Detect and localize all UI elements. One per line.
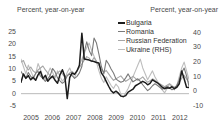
ytick-right-20: 20 xyxy=(193,58,211,65)
ytick-left-5: 5 xyxy=(1,77,16,84)
legend-swatch-icon xyxy=(118,31,125,32)
ytick-right-0: 0 xyxy=(193,87,211,94)
ytick-left-20: 20 xyxy=(1,40,16,47)
ytick-left-neg5: -5 xyxy=(1,102,16,109)
legend: BulgariaRomaniaRussian FederationUkraine… xyxy=(118,18,210,54)
legend-item-bulgaria[interactable]: Bulgaria xyxy=(118,18,210,27)
legend-item-romania[interactable]: Romania xyxy=(118,27,210,36)
legend-label: Bulgaria xyxy=(126,18,152,27)
legend-label: Romania xyxy=(126,27,154,36)
right-axis-title: Percent, year-on-year xyxy=(150,6,218,13)
left-axis-title: Percent, year-on-year xyxy=(17,6,85,13)
ytick-left-25: 25 xyxy=(1,28,16,35)
legend-item-ukraine-rhs[interactable]: Ukraine (RHS) xyxy=(118,45,210,54)
legend-swatch-icon xyxy=(118,49,125,50)
legend-swatch-icon xyxy=(118,22,125,24)
ytick-right-10: 10 xyxy=(193,73,211,80)
legend-label: Russian Federation xyxy=(126,36,187,45)
ytick-right-neg10: -10 xyxy=(193,102,211,109)
series-line-russian-federation xyxy=(21,57,189,88)
ytick-left-0: 0 xyxy=(1,90,16,97)
ytick-left-10: 10 xyxy=(1,65,16,72)
xtick-2012: 2012 xyxy=(168,114,192,121)
legend-item-russian-federation[interactable]: Russian Federation xyxy=(118,36,210,45)
chart-container: Percent, year-on-year Percent, year-on-y… xyxy=(0,0,223,133)
legend-swatch-icon xyxy=(118,40,125,41)
legend-label: Ukraine (RHS) xyxy=(126,45,172,54)
ytick-left-15: 15 xyxy=(1,53,16,60)
